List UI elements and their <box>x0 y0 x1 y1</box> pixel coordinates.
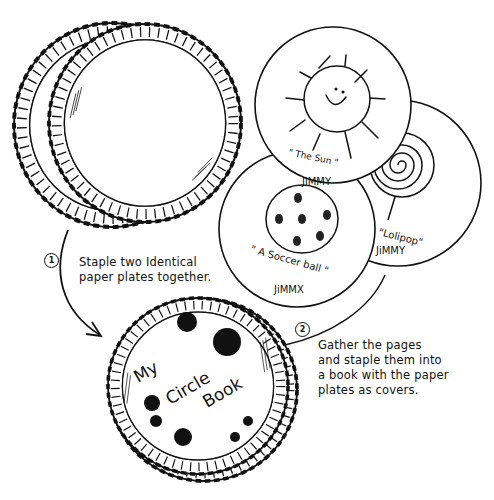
step-1-instructions: Staple two Identical paper plates togeth… <box>79 255 211 285</box>
lolipop-author: JiMMY <box>375 245 406 256</box>
sun-author: JiMMY <box>301 176 332 187</box>
stacked-plates-front <box>49 24 241 222</box>
circle-book-illustration: "Lolipop" JiMMY " A Soccer ball " JiMMX <box>0 0 494 500</box>
step-2-line-2: and staple them into <box>318 353 449 368</box>
soccer-ball-author: JiMMX <box>273 284 304 295</box>
arrowhead-icon <box>86 322 101 336</box>
step-2-line-1: Gather the pages <box>318 338 449 353</box>
step-1-line-2: paper plates together. <box>79 270 211 285</box>
step-2-line-3: a book with the paper <box>318 368 449 383</box>
step-2-line-4: plates as covers. <box>318 383 449 398</box>
step-2-instructions: Gather the pages and staple them into a … <box>318 338 449 398</box>
step-number-2: 2 <box>295 322 310 337</box>
step-number-1: 1 <box>44 253 59 268</box>
step-1-line-1: Staple two Identical <box>79 255 211 270</box>
